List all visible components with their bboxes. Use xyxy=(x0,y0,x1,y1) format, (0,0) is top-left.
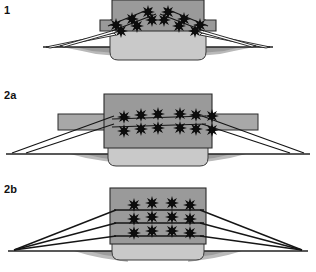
panel-1-illustration xyxy=(0,0,316,88)
figure-root: 1 xyxy=(0,0,316,272)
panel-2a-illustration xyxy=(0,86,316,178)
panel-2b-illustration xyxy=(0,178,316,272)
panel-1: 1 xyxy=(0,0,316,88)
panel-2b: 2b xyxy=(0,178,316,272)
panel-2a: 2a xyxy=(0,86,316,178)
